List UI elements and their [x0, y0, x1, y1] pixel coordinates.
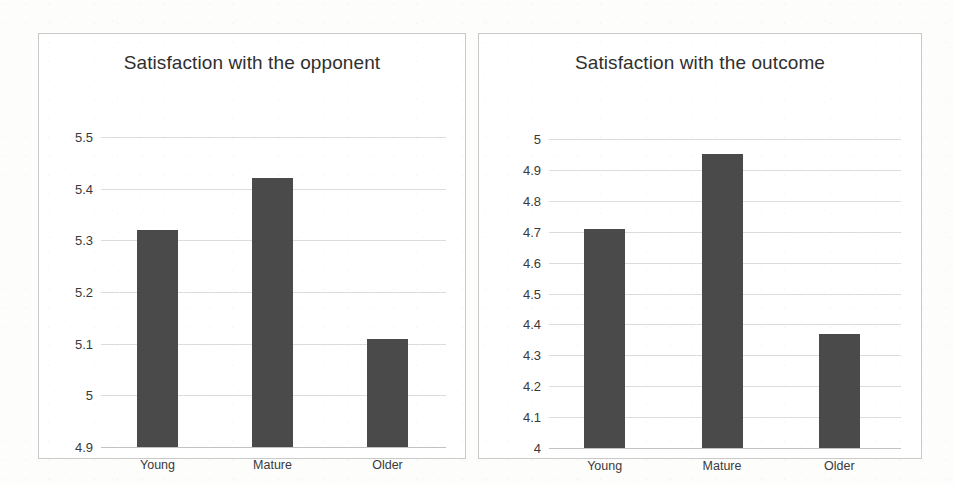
y-axis-tick-label: 5: [86, 388, 93, 403]
gridline: [101, 447, 446, 448]
bar-mature: [702, 154, 743, 448]
y-axis-tick-label: 4.2: [523, 379, 541, 394]
x-axis-tick-label-older: Older: [372, 458, 403, 472]
bar-young: [584, 229, 625, 448]
chart-title-outcome: Satisfaction with the outcome: [479, 52, 921, 74]
y-axis-tick-label: 4.5: [523, 286, 541, 301]
chart-panel-satisfaction-outcome: Satisfaction with the outcome 44.14.24.3…: [478, 33, 922, 459]
y-axis-tick-label: 5.4: [75, 181, 93, 196]
chart-title-opponent: Satisfaction with the opponent: [39, 52, 465, 74]
y-axis-tick-label: 5.2: [75, 285, 93, 300]
x-axis-tick-label-young: Young: [587, 459, 622, 473]
y-axis-tick-label: 4: [534, 441, 541, 456]
y-axis-tick-label: 5.5: [75, 130, 93, 145]
x-axis-tick-label-mature: Mature: [253, 458, 292, 472]
x-axis-tick-label-young: Young: [140, 458, 175, 472]
y-axis-tick-label: 4.9: [75, 440, 93, 455]
x-axis-tick-label-older: Older: [824, 459, 855, 473]
y-axis-tick-label: 5.3: [75, 233, 93, 248]
x-axis-tick-label-mature: Mature: [703, 459, 742, 473]
y-axis-tick-label: 4.6: [523, 255, 541, 270]
y-axis-tick-label: 5.1: [75, 336, 93, 351]
gridline: [549, 448, 901, 449]
gridline: [549, 139, 901, 140]
plot-area-outcome: 44.14.24.34.44.54.64.74.84.95YoungMature…: [549, 139, 901, 448]
y-axis-tick-label: 4.4: [523, 317, 541, 332]
gridline: [101, 137, 446, 138]
bar-older: [819, 334, 860, 448]
y-axis-tick-label: 5: [534, 132, 541, 147]
y-axis-tick-label: 4.7: [523, 224, 541, 239]
chart-panel-satisfaction-opponent: Satisfaction with the opponent 4.955.15.…: [38, 33, 466, 459]
bar-mature: [252, 178, 293, 447]
y-axis-tick-label: 4.9: [523, 162, 541, 177]
bar-young: [137, 230, 178, 447]
y-axis-tick-label: 4.1: [523, 410, 541, 425]
y-axis-tick-label: 4.8: [523, 193, 541, 208]
figure-root: Satisfaction with the opponent 4.955.15.…: [0, 0, 954, 484]
bar-older: [367, 339, 408, 448]
plot-area-opponent: 4.955.15.25.35.45.5YoungMatureOlder: [101, 137, 446, 447]
y-axis-tick-label: 4.3: [523, 348, 541, 363]
